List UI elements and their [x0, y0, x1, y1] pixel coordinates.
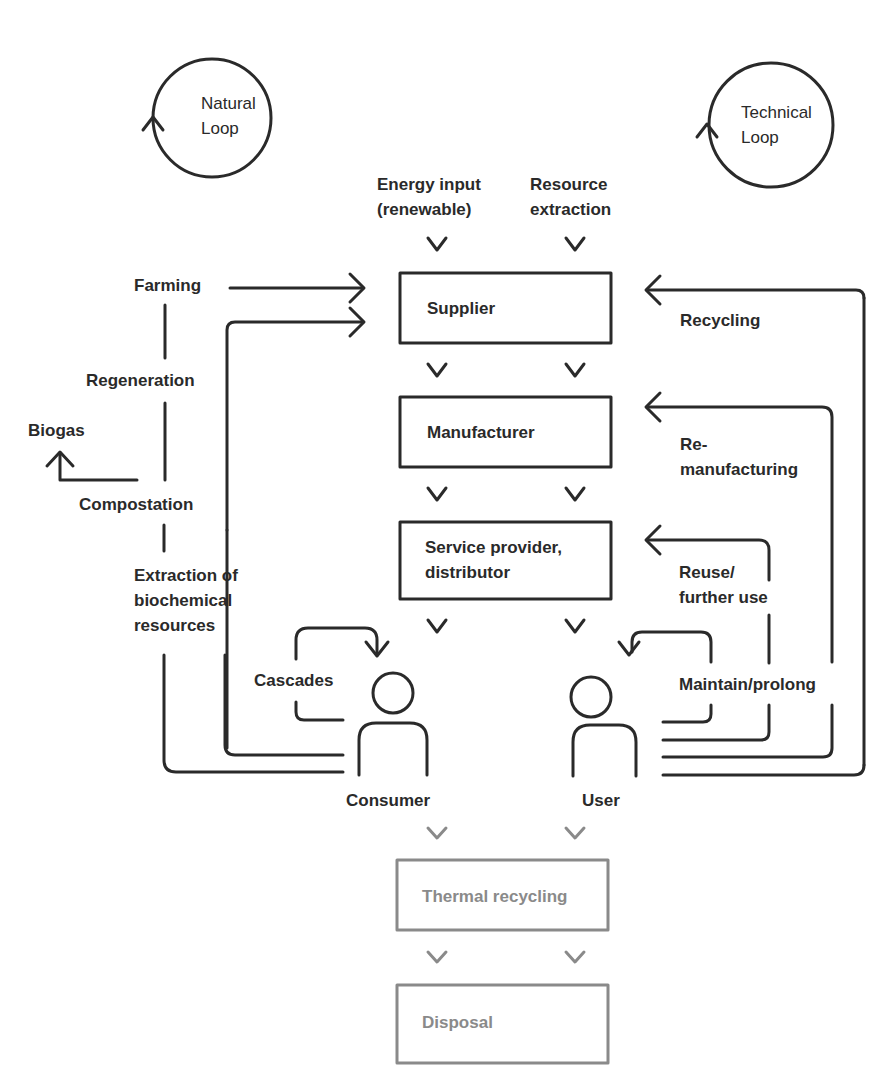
remanufacturing-label: Re- manufacturing — [680, 432, 798, 482]
consumer-head — [373, 673, 413, 713]
manufacturer-label: Manufacturer — [427, 420, 535, 445]
chevron-down-icon — [428, 828, 446, 838]
consumer-label: Consumer — [346, 788, 430, 813]
extraction-biochemical-label: Extraction of biochemical resources — [134, 563, 238, 638]
chevron-down-icon — [428, 238, 446, 250]
energy-input-line2: (renewable) — [377, 197, 481, 222]
reuse-line2: further use — [679, 585, 768, 610]
service-provider-line1: Service provider, — [425, 535, 562, 560]
technical-loop-label-line2: Loop — [741, 125, 812, 150]
supplier-label: Supplier — [427, 296, 495, 321]
maintain-prolong-label: Maintain/prolong — [679, 672, 816, 697]
chevron-down-icon — [566, 364, 584, 376]
extraction-line1: Extraction of — [134, 563, 238, 588]
regeneration-label: Regeneration — [86, 368, 195, 393]
consumer-body — [359, 723, 427, 775]
technical-loop-arrow-icon — [697, 124, 717, 137]
natural-loop-label-line1: Natural — [201, 91, 256, 116]
technical-loop-label: Technical Loop — [741, 100, 812, 150]
extraction-line2: biochemical — [134, 588, 238, 613]
chevron-down-icon — [566, 620, 584, 632]
farming-label: Farming — [134, 273, 201, 298]
user-head — [571, 677, 611, 717]
user-body — [573, 725, 636, 776]
service-provider-label: Service provider, distributor — [425, 535, 562, 585]
chevron-down-icon — [428, 488, 446, 500]
service-provider-line2: distributor — [425, 560, 562, 585]
resource-extraction-line1: Resource — [530, 172, 611, 197]
user-label: User — [582, 788, 620, 813]
chevron-down-icon — [566, 952, 584, 962]
natural-loop-label: Natural Loop — [201, 91, 256, 141]
chevron-down-icon — [566, 488, 584, 500]
recycling-label: Recycling — [680, 308, 760, 333]
natural-loop-label-line2: Loop — [201, 116, 256, 141]
energy-input-line1: Energy input — [377, 172, 481, 197]
energy-input-label: Energy input (renewable) — [377, 172, 481, 222]
chevron-down-icon — [566, 828, 584, 838]
compostation-label: Compostation — [79, 492, 193, 517]
disposal-label: Disposal — [422, 1010, 493, 1035]
reuse-line1: Reuse/ — [679, 560, 768, 585]
remanufacturing-line1: Re- — [680, 432, 798, 457]
remanufacturing-line2: manufacturing — [680, 457, 798, 482]
chevron-down-icon — [428, 952, 446, 962]
resource-extraction-line2: extraction — [530, 197, 611, 222]
chevron-down-icon — [428, 620, 446, 632]
reuse-label: Reuse/ further use — [679, 560, 768, 610]
resource-extraction-label: Resource extraction — [530, 172, 611, 222]
chevron-down-icon — [428, 364, 446, 376]
extraction-line3: resources — [134, 613, 238, 638]
biogas-label: Biogas — [28, 418, 85, 443]
chevron-down-icon — [566, 238, 584, 250]
arrow-down-icon — [619, 642, 639, 655]
cascades-label: Cascades — [254, 668, 333, 693]
thermal-recycling-label: Thermal recycling — [422, 884, 568, 909]
technical-loop-label-line1: Technical — [741, 100, 812, 125]
